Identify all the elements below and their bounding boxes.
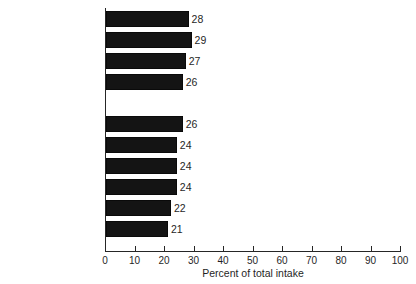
x-tick-label: 0 [90, 255, 120, 267]
bar [106, 200, 171, 216]
x-tick-label: 50 [238, 255, 268, 267]
x-tick-label: 30 [179, 255, 209, 267]
bar [106, 32, 192, 48]
bar [106, 11, 189, 27]
x-tick-mark [371, 246, 372, 251]
x-tick-mark [105, 246, 106, 251]
x-tick-label: 60 [267, 255, 297, 267]
bar-value-label: 29 [192, 32, 207, 48]
x-tick-mark [135, 246, 136, 251]
x-tick-label: 100 [385, 255, 415, 267]
bar [106, 179, 177, 195]
bar-value-label: 26 [183, 116, 198, 132]
bar [106, 158, 177, 174]
x-tick-label: 70 [297, 255, 327, 267]
bar [106, 74, 183, 90]
x-axis-line [105, 251, 401, 252]
x-tick-mark [194, 246, 195, 251]
x-tick-label: 90 [356, 255, 386, 267]
x-tick-label: 80 [326, 255, 356, 267]
x-tick-label: 40 [208, 255, 238, 267]
bar [106, 221, 168, 237]
bar-value-label: 21 [168, 221, 183, 237]
x-tick-mark [253, 246, 254, 251]
bar [106, 116, 183, 132]
x-axis-title: Percent of total intake [105, 267, 401, 280]
bar-value-label: 24 [177, 179, 192, 195]
bar-value-label: 26 [183, 74, 198, 90]
bar [106, 137, 177, 153]
x-tick-mark [282, 246, 283, 251]
bar-value-label: 24 [177, 137, 192, 153]
x-tick-mark [400, 246, 401, 251]
x-tick-mark [164, 246, 165, 251]
bar-value-label: 24 [177, 158, 192, 174]
x-tick-mark [223, 246, 224, 251]
x-tick-label: 20 [149, 255, 179, 267]
x-tick-mark [341, 246, 342, 251]
bar-value-label: 27 [186, 53, 201, 69]
x-tick-label: 10 [120, 255, 150, 267]
bar-value-label: 22 [171, 200, 186, 216]
x-tick-mark [312, 246, 313, 251]
bar [106, 53, 186, 69]
bar-value-label: 28 [189, 11, 204, 27]
bar-chart: Food energy (Kcal)28Total fat (g)29Carbo… [0, 0, 416, 284]
y-axis-line [105, 8, 106, 252]
